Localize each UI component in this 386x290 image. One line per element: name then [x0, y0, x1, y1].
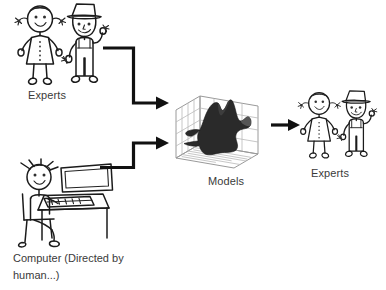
node-models: [172, 88, 272, 174]
node-experts-right: [294, 88, 386, 164]
farmer-stick-figure: [337, 91, 377, 156]
experts-right-figures: [294, 88, 386, 164]
diagram-canvas: Experts: [0, 0, 386, 290]
arrow-experts-to-models: [103, 48, 169, 110]
arrow-computer-to-models: [100, 137, 169, 168]
3d-surface-plot: [172, 88, 272, 174]
models-label: Models: [208, 175, 244, 187]
woman-stick-figure: [298, 93, 340, 158]
experts-right-label: Experts: [311, 167, 349, 179]
